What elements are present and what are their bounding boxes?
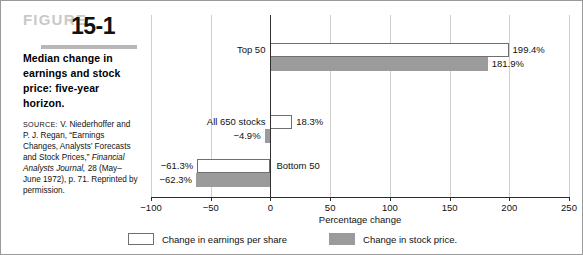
bar-value-label: 199.4%: [513, 43, 545, 57]
bar-top-50-earnings: [270, 43, 508, 57]
category-label-top-50: Top 50: [237, 44, 266, 55]
bar-bottom-50-stock: [196, 173, 270, 187]
figure-container: FIGURE 15-1 Median change in earnings an…: [0, 0, 583, 255]
gridline: [509, 15, 510, 197]
legend-label: Change in earnings per share: [162, 234, 287, 245]
category-label-bottom-50: Bottom 50: [276, 160, 319, 171]
x-axis-tick: [509, 197, 510, 201]
bar-value-label: −4.9%: [233, 129, 260, 143]
x-axis-tick-label: 50: [325, 202, 336, 213]
chart-plot-area: 199.4%181.9%Top 5018.3%−4.9%All 650 stoc…: [151, 15, 569, 197]
legend-swatch-earnings: [128, 233, 154, 245]
legend-label: Change in stock price.: [363, 234, 457, 245]
legend-swatch-stock: [329, 233, 355, 245]
x-axis-tick: [270, 197, 271, 201]
bar-value-label: −61.3%: [161, 159, 194, 173]
legend-item: Change in stock price.: [329, 233, 457, 245]
source-label: SOURCE:: [23, 120, 58, 129]
x-axis-tick-label: 100: [382, 202, 398, 213]
x-axis-tick: [450, 197, 451, 201]
caption-column: FIGURE 15-1 Median change in earnings an…: [1, 1, 137, 255]
bar-value-label: 181.9%: [492, 57, 524, 71]
legend-item: Change in earnings per share: [128, 233, 287, 245]
gridline: [151, 15, 152, 197]
x-axis-tick: [390, 197, 391, 201]
figure-number-label: 15-1: [71, 13, 115, 40]
x-axis-line: [151, 197, 569, 198]
gridline: [569, 15, 570, 197]
x-axis-tick: [151, 197, 152, 201]
bar-bottom-50-earnings: [197, 159, 270, 173]
x-axis-tick-label: 150: [442, 202, 458, 213]
chart-legend: Change in earnings per shareChange in st…: [1, 233, 583, 245]
figure-source-note: SOURCE: V. Niederhoffer and P. J. Regan,…: [23, 119, 139, 196]
x-axis-tick: [569, 197, 570, 201]
x-axis-title: Percentage change: [151, 214, 569, 225]
category-label-all-650-stocks: All 650 stocks: [207, 116, 266, 127]
figure-banner: FIGURE 15-1: [23, 9, 131, 43]
x-axis-tick-label: −50: [203, 202, 219, 213]
x-axis-tick-label: 200: [501, 202, 517, 213]
x-axis-tick-label: −100: [140, 202, 161, 213]
bar-top-50-stock: [270, 57, 487, 71]
figure-rule-divider: [41, 45, 137, 49]
bar-value-label: 18.3%: [296, 115, 323, 129]
x-axis-tick-label: 250: [561, 202, 577, 213]
x-axis-tick: [330, 197, 331, 201]
figure-caption: Median change in earnings and stock pric…: [23, 51, 135, 111]
bar-value-label: −62.3%: [160, 173, 193, 187]
bar-all-650-stocks-earnings: [270, 115, 292, 129]
x-axis-tick: [211, 197, 212, 201]
zero-axis-line: [270, 15, 271, 197]
x-axis-tick-label: 0: [268, 202, 273, 213]
